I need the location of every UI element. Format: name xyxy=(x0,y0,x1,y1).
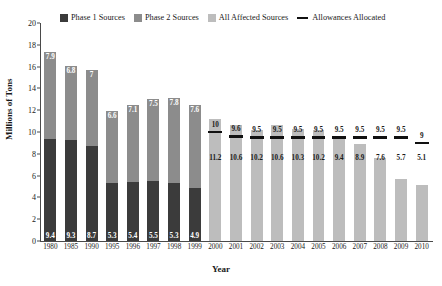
legend-label-phase-2-sources: Phase 2 Sources xyxy=(145,13,199,22)
x-axis-tick-label: 2000 xyxy=(208,243,222,251)
allowance-marker-2010 xyxy=(415,142,429,145)
allowance-marker-2003 xyxy=(270,136,284,139)
bar-segment-phase-1: 4.9 xyxy=(189,188,201,241)
bar-2001 xyxy=(230,125,242,241)
bar-segment-all-affected xyxy=(230,125,242,241)
allowance-value-label-2009: 9.5 xyxy=(397,126,406,134)
x-axis-tick-label: 1990 xyxy=(84,243,98,251)
x-axis-tick-label: 1995 xyxy=(105,243,119,251)
y-axis-tick-mark xyxy=(37,88,40,89)
bar-value-label-phase-1: 9.3 xyxy=(66,232,75,240)
allowance-value-label-2006: 9.5 xyxy=(335,126,344,134)
bar-2008 xyxy=(374,158,386,241)
bar-segment-phase-1: 9.4 xyxy=(44,139,56,241)
chart-legend: Phase 1 Sources Phase 2 Sources All Affe… xyxy=(60,13,385,22)
allowance-value-label-2003: 9.5 xyxy=(273,126,282,134)
bar-2009 xyxy=(395,179,407,241)
bar-value-label-all-affected: 11.2 xyxy=(209,154,221,162)
x-axis-tick-label: 2006 xyxy=(332,243,346,251)
bar-value-label-phase-2: 7.9 xyxy=(46,53,55,61)
legend-item-phase-1-sources: Phase 1 Sources xyxy=(60,13,125,22)
bar-segment-phase-2: 7.8 xyxy=(168,98,180,183)
bar-segment-all-affected xyxy=(374,158,386,241)
legend-swatch-all-affected-sources xyxy=(208,14,216,22)
bar-segment-phase-1: 5.3 xyxy=(106,183,118,241)
x-axis-tick-label: 2002 xyxy=(249,243,263,251)
bar-value-label-all-affected: 10.3 xyxy=(292,154,305,162)
legend-swatch-phase-1-sources xyxy=(60,14,68,22)
y-axis-tick-mark xyxy=(37,241,40,242)
allowance-value-label-2007: 9.5 xyxy=(355,126,364,134)
legend-swatch-phase-2-sources xyxy=(134,14,142,22)
x-axis-tick-label: 1996 xyxy=(126,243,140,251)
y-axis-title: Millions of Tons xyxy=(4,78,14,140)
bar-value-label-all-affected: 10.2 xyxy=(312,154,325,162)
bar-segment-phase-2: 7.5 xyxy=(147,99,159,181)
legend-label-allowances-allocated: Allowances Allocated xyxy=(312,13,385,22)
allowance-value-label-2004: 9.5 xyxy=(293,126,302,134)
y-axis-tick-label: 14 xyxy=(28,84,36,93)
allowance-marker-2002 xyxy=(250,136,264,139)
bar-value-label-phase-2: 7.8 xyxy=(170,99,179,107)
bar-value-label-phase-1: 5.3 xyxy=(170,232,179,240)
y-axis-tick-label: 18 xyxy=(28,40,36,49)
bar-segment-phase-2: 6.6 xyxy=(106,111,118,183)
bar-1999: 7.64.9 xyxy=(189,105,201,241)
bar-value-label-phase-2: 6.6 xyxy=(108,112,117,120)
bar-segment-all-affected xyxy=(209,119,221,241)
y-axis-tick-label: 2 xyxy=(32,215,36,224)
y-axis-tick-mark xyxy=(37,110,40,111)
bar-segment-all-affected xyxy=(271,125,283,241)
x-axis-tick-label: 1998 xyxy=(167,243,181,251)
bar-segment-all-affected xyxy=(292,129,304,241)
legend-label-all-affected-sources: All Affected Sources xyxy=(219,13,288,22)
legend-item-allowances-allocated: Allowances Allocated xyxy=(297,13,385,22)
bar-2004 xyxy=(292,129,304,241)
allowance-marker-2004 xyxy=(291,136,305,139)
allowance-marker-2000 xyxy=(208,131,222,134)
legend-item-phase-2-sources: Phase 2 Sources xyxy=(134,13,199,22)
bar-value-label-all-affected: 5.7 xyxy=(397,154,406,162)
bar-value-label-phase-1: 8.7 xyxy=(87,232,96,240)
bar-value-label-phase-1: 5.4 xyxy=(128,232,137,240)
bar-value-label-phase-1: 4.9 xyxy=(190,232,199,240)
bar-value-label-phase-1: 5.5 xyxy=(149,232,158,240)
x-axis-tick-label: 1985 xyxy=(64,243,78,251)
allowance-value-label-2000: 10 xyxy=(212,121,219,129)
y-axis-tick-label: 6 xyxy=(32,171,36,180)
bar-segment-all-affected xyxy=(395,179,407,241)
bar-value-label-all-affected: 5.1 xyxy=(417,154,426,162)
y-axis-tick-label: 20 xyxy=(28,19,36,28)
bar-value-label-phase-2: 7.1 xyxy=(128,106,137,114)
y-axis-tick-label: 16 xyxy=(28,62,36,71)
bar-1980: 7.99.4 xyxy=(44,52,56,241)
allowance-value-label-2008: 9.5 xyxy=(376,126,385,134)
x-axis-tick-label: 2010 xyxy=(414,243,428,251)
legend-swatch-allowances-allocated xyxy=(297,17,308,19)
allowance-marker-2001 xyxy=(229,135,243,138)
y-axis-tick-label: 10 xyxy=(28,128,36,137)
x-axis-title: Year xyxy=(0,264,442,274)
bar-segment-all-affected xyxy=(313,130,325,241)
x-axis-tick-label: 2005 xyxy=(311,243,325,251)
bar-value-label-phase-2: 7 xyxy=(90,71,94,79)
bar-value-label-all-affected: 10.6 xyxy=(230,154,243,162)
y-axis-tick-mark xyxy=(37,219,40,220)
legend-item-all-affected-sources: All Affected Sources xyxy=(208,13,288,22)
bar-2010 xyxy=(416,185,428,241)
plot-area: 024681012141618207.99.46.89.378.76.65.37… xyxy=(40,23,432,241)
bar-1996: 7.15.4 xyxy=(127,105,139,241)
x-axis-tick-label: 1999 xyxy=(188,243,202,251)
x-axis-tick-label: 2008 xyxy=(373,243,387,251)
bar-segment-all-affected xyxy=(251,130,263,241)
x-axis-tick-label: 2003 xyxy=(270,243,284,251)
y-axis-tick-label: 4 xyxy=(32,193,36,202)
bar-segment-phase-2: 7.1 xyxy=(127,105,139,182)
bar-segment-phase-1: 8.7 xyxy=(86,146,98,241)
allowance-marker-2008 xyxy=(373,136,387,139)
bar-value-label-phase-1: 5.3 xyxy=(108,232,117,240)
bar-segment-phase-1: 5.5 xyxy=(147,181,159,241)
bar-1998: 7.85.3 xyxy=(168,98,180,241)
bar-segment-phase-2: 7.6 xyxy=(189,105,201,188)
y-axis-tick-mark xyxy=(37,66,40,67)
